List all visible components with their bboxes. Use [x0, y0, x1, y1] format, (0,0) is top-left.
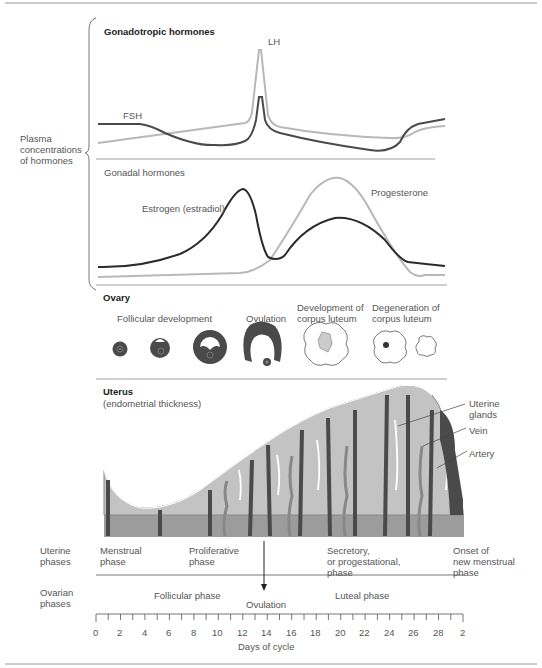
gonadal-title: Gonadal hormones: [104, 167, 185, 178]
plasma-bracket: [85, 18, 96, 290]
ovary-title: Ovary: [103, 292, 130, 303]
estrogen-curve: [98, 189, 445, 267]
estrogen-label: Estrogen (estradiol): [142, 203, 225, 214]
tick-label: 26: [408, 627, 419, 638]
label-line: or progestational,: [327, 556, 400, 567]
uterine-phases-label: Uterine phases: [40, 545, 71, 567]
days-axis: [96, 614, 463, 622]
label-line: Proliferative: [189, 545, 239, 556]
label-line: Degeneration of: [372, 302, 440, 313]
tick-label: 22: [359, 627, 370, 638]
progesterone-label: Progesterone: [371, 187, 428, 198]
label-line: corpus luteum: [297, 313, 364, 324]
ovulation-stage-label: Ovulation: [246, 313, 286, 324]
label-line: Uterine: [40, 545, 71, 556]
label-line: Onset of: [453, 545, 515, 556]
tick-label: 12: [237, 627, 248, 638]
label-line: Development of: [297, 302, 364, 313]
tick-label: 0: [93, 627, 98, 638]
ovarian-phases-label: Ovarian phases: [40, 587, 73, 609]
vein-callout: Vein: [469, 425, 488, 436]
label-line: phase: [453, 567, 515, 578]
tick-label: 14: [261, 627, 272, 638]
tick-label: 2: [117, 627, 122, 638]
gonadotropic-title: Gonadotropic hormones: [104, 26, 215, 37]
label-line: Ovarian: [40, 587, 73, 598]
axis-tick-labels: 0 2 4 6 8 10 12 14 16 18 20 22 24 26 28 …: [0, 627, 542, 639]
follicular-phase-label: Follicular phase: [154, 590, 221, 601]
label-line: phase: [189, 556, 239, 567]
ovulation-arrowhead: [261, 584, 267, 591]
new-menstrual-phase-label: Onset of new menstrual phase: [453, 545, 515, 578]
label-line: phase: [327, 567, 400, 578]
callout-line: Uterine: [469, 398, 500, 409]
plasma-label-line: Plasma: [20, 133, 82, 144]
label-line: corpus luteum: [372, 313, 440, 324]
label-line: Secretory,: [327, 545, 400, 556]
tick-label: 8: [191, 627, 196, 638]
uterus-subtitle: (endometrial thickness): [103, 398, 201, 409]
plasma-label-line: of hormones: [20, 155, 82, 166]
axis-title: Days of cycle: [238, 641, 295, 652]
secretory-phase-label: Secretory, or progestational, phase: [327, 545, 400, 578]
tick-label: 4: [142, 627, 147, 638]
fsh-curve: [98, 97, 445, 151]
label-line: phases: [40, 598, 73, 609]
artery-callout: Artery: [469, 448, 494, 459]
luteal-phase-label: Luteal phase: [335, 590, 389, 601]
lh-label: LH: [268, 36, 280, 47]
label-line: new menstrual: [453, 556, 515, 567]
ovary-illustrations: [113, 322, 437, 366]
plasma-label: Plasma concentrations of hormones: [20, 133, 82, 166]
plasma-label-line: concentrations: [20, 144, 82, 155]
tick-label: 2: [460, 627, 465, 638]
uterus-title: Uterus: [103, 386, 133, 397]
corpus-luteum-degeneration-label: Degeneration of corpus luteum: [372, 302, 440, 324]
callout-line: glands: [469, 409, 500, 420]
proliferative-phase-label: Proliferative phase: [189, 545, 239, 567]
tick-label: 6: [166, 627, 171, 638]
label-line: phases: [40, 556, 71, 567]
menstrual-phase-label: Menstrual phase: [100, 545, 142, 567]
tick-label: 28: [433, 627, 444, 638]
fsh-label: FSH: [123, 110, 142, 121]
tick-label: 18: [310, 627, 321, 638]
corpus-luteum-development-label: Development of corpus luteum: [297, 302, 364, 324]
label-line: phase: [100, 556, 142, 567]
tick-label: 20: [335, 627, 346, 638]
uterine-glands-callout: Uterine glands: [469, 398, 500, 420]
tick-label: 16: [286, 627, 297, 638]
ovulation-label: Ovulation: [246, 599, 286, 610]
label-line: Menstrual: [100, 545, 142, 556]
tick-label: 24: [384, 627, 395, 638]
tick-label: 10: [212, 627, 223, 638]
follicular-development-label: Follicular development: [117, 313, 212, 324]
